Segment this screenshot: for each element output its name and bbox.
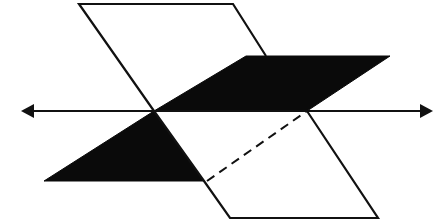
dashed-hidden-edge [207,111,307,181]
arrow-right-icon [420,104,433,118]
arrow-left-icon [21,104,34,118]
intersecting-planes-diagram [0,0,434,222]
